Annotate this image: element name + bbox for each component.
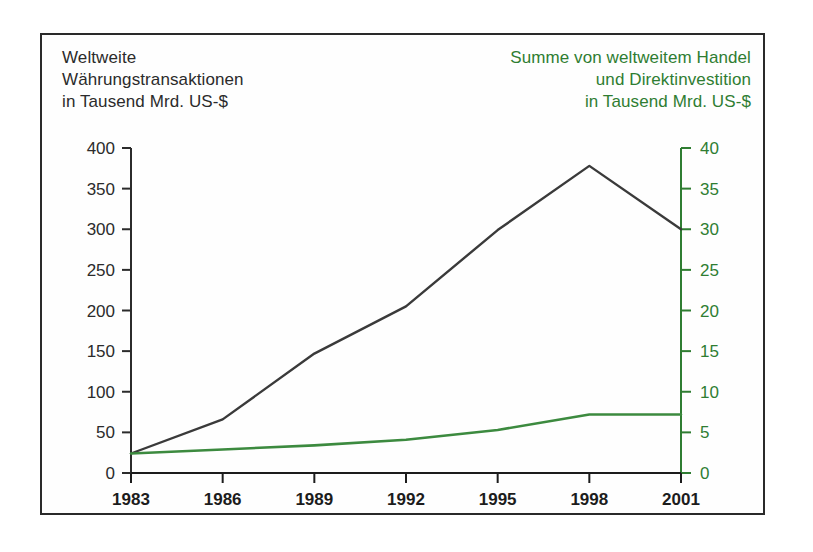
left-axis-tick-label: 200 — [87, 302, 115, 321]
right-axis-tick-label: 40 — [700, 139, 719, 158]
right-axis-tick-label: 5 — [700, 423, 709, 442]
x-axis-tick-label: 1998 — [570, 490, 608, 509]
chart-figure: Weltweite Währungstransaktionen in Tause… — [0, 0, 813, 552]
left-axis-tick-label: 400 — [87, 139, 115, 158]
right-axis-tick-label: 20 — [700, 302, 719, 321]
left-axis-tick-label: 250 — [87, 261, 115, 280]
right-axis-tick-label: 25 — [700, 261, 719, 280]
x-axis-tick-label: 1995 — [479, 490, 517, 509]
x-axis-tick-label: 2001 — [662, 490, 700, 509]
series-line — [131, 415, 681, 454]
left-axis-tick-label: 350 — [87, 180, 115, 199]
data-series-layer — [131, 166, 681, 454]
left-axis-tick-label: 100 — [87, 383, 115, 402]
x-axis: 1983198619891992199519982001 — [112, 473, 700, 509]
right-axis-tick-label: 30 — [700, 220, 719, 239]
left-axis: 050100150200250300350400 — [87, 139, 131, 483]
right-axis-tick-label: 10 — [700, 383, 719, 402]
x-axis-tick-label: 1986 — [204, 490, 242, 509]
series-line — [131, 166, 681, 454]
x-axis-tick-label: 1989 — [295, 490, 333, 509]
right-axis-tick-label: 15 — [700, 342, 719, 361]
chart-plot-area: 050100150200250300350400 051015202530354… — [0, 0, 813, 552]
left-axis-tick-label: 50 — [96, 423, 115, 442]
left-axis-tick-label: 0 — [106, 464, 115, 483]
right-axis-tick-label: 0 — [700, 464, 709, 483]
x-axis-tick-label: 1983 — [112, 490, 150, 509]
right-axis: 0510152025303540 — [681, 139, 719, 483]
right-axis-tick-label: 35 — [700, 180, 719, 199]
left-axis-tick-label: 150 — [87, 342, 115, 361]
x-axis-tick-label: 1992 — [387, 490, 425, 509]
left-axis-tick-label: 300 — [87, 220, 115, 239]
